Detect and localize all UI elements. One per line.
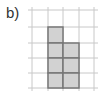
shaded-cell — [48, 58, 63, 73]
shaded-cell — [48, 43, 63, 58]
shaded-cell — [63, 58, 79, 73]
shaded-shape — [48, 27, 79, 88]
shaded-cell — [48, 27, 63, 43]
shaded-cell — [48, 73, 63, 88]
grid-diagram — [0, 0, 103, 94]
shaded-cell — [63, 73, 79, 88]
shaded-cell — [63, 43, 79, 58]
